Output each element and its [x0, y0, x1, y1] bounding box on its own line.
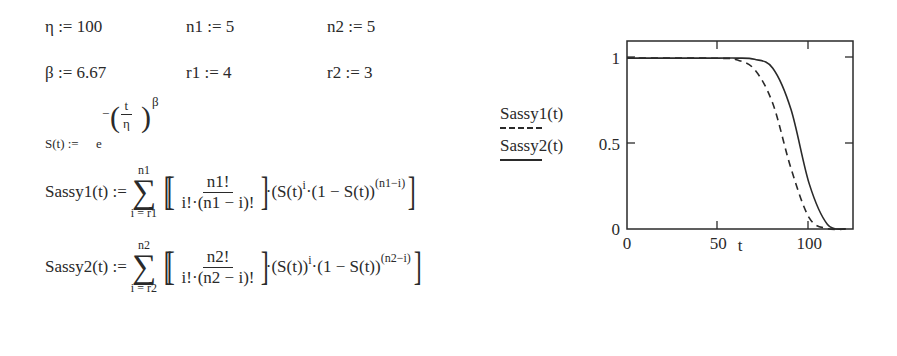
- bracket-close-inner: ]: [261, 172, 269, 212]
- sigma-icon: ∑: [132, 252, 156, 282]
- survival-term: ·(S(t): [266, 182, 303, 202]
- sigma-icon: ∑: [132, 177, 156, 207]
- eta-symbol: η: [45, 17, 54, 36]
- n2-definition: n2 := 5: [327, 17, 375, 37]
- summation: n2 ∑ i = r2: [131, 239, 157, 295]
- n1-definition: n1 := 5: [186, 17, 234, 37]
- beta-value: 6.67: [76, 63, 106, 82]
- y-tick-label: 0.5: [599, 135, 620, 154]
- sassy2-curve: [627, 58, 846, 229]
- beta-exponent: β: [152, 94, 159, 110]
- eta-value: 100: [77, 17, 103, 36]
- x-axis-label: t: [738, 236, 743, 255]
- assign-op: :=: [204, 63, 218, 82]
- legend-label-sassy1: Sassy1(t): [500, 104, 563, 123]
- n2-value: 5: [367, 17, 376, 36]
- survival-definition: S(t) := e − ( t η ) β: [45, 96, 175, 146]
- bracket-close-inner: ]: [261, 247, 269, 287]
- survival-term: ·(S(t)): [266, 257, 308, 277]
- legend-sassy1: Sassy1(t): [500, 104, 563, 124]
- frac-numerator: n1!: [203, 172, 234, 193]
- eta-definition: η := 100: [45, 17, 102, 37]
- binomial-fraction: n1! i!·(n1 − i)!: [178, 172, 259, 213]
- exp-base: e: [96, 136, 102, 152]
- n2-symbol: n2: [327, 17, 344, 36]
- r1-symbol: r1: [186, 63, 200, 82]
- r1-definition: r1 := 4: [186, 63, 231, 83]
- x-tick-label: 0: [623, 234, 632, 253]
- sassy1-definition: Sassy1(t) := n1 ∑ i = r1 [ [ n1! i!·(n1 …: [45, 160, 418, 224]
- failure-term: ·(1 − S(t)): [312, 257, 381, 277]
- r2-value: 3: [364, 63, 373, 82]
- x-axis-ticks: 050100: [623, 234, 822, 253]
- failure-term: ·(1 − S(t)): [306, 182, 375, 202]
- binomial-fraction: n2! i!·(n2 − i)!: [178, 247, 259, 288]
- n1-value: 5: [226, 17, 235, 36]
- x-tick-label: 100: [797, 234, 823, 253]
- assign-op: :=: [348, 17, 362, 36]
- assign-op: :=: [207, 17, 221, 36]
- legend-dashed-line: [500, 127, 542, 129]
- frac-numerator: t: [121, 98, 133, 115]
- assign-op: :=: [58, 17, 72, 36]
- assign-op: :=: [345, 63, 359, 82]
- t-over-eta: t η: [119, 98, 134, 133]
- assign-op: :=: [58, 63, 72, 82]
- survival-lhs: S(t) :=: [45, 136, 79, 152]
- frac-denominator: η: [119, 115, 134, 133]
- frac-denominator: i!·(n1 − i)!: [178, 193, 259, 213]
- beta-definition: β := 6.67: [45, 63, 106, 83]
- minus-sign: −: [102, 106, 109, 122]
- plot-frame: [627, 41, 853, 229]
- bracket-open-inner: [: [167, 247, 175, 287]
- summation: n1 ∑ i = r1: [131, 164, 157, 220]
- y-tick-label: 0: [612, 220, 621, 239]
- exponent-n-minus-i: (n1−i): [375, 176, 405, 191]
- bracket-close: ]: [413, 247, 421, 287]
- x-tick-label: 50: [710, 234, 727, 253]
- bracket-open-inner: [: [167, 172, 175, 212]
- legend-solid-line: [500, 159, 542, 161]
- sassy2-definition: Sassy2(t) := n2 ∑ i = r2 [ [ n2! i!·(n2 …: [45, 235, 424, 299]
- frac-denominator: i!·(n2 − i)!: [178, 268, 259, 288]
- sum-lower-limit: i = r2: [131, 282, 157, 295]
- legend-label-sassy2: Sassy2(t): [500, 136, 563, 155]
- reliability-chart: 00.51 050100 t: [560, 30, 880, 260]
- y-axis-ticks: 00.51: [599, 49, 620, 239]
- sassy1-curve: [627, 58, 846, 229]
- r2-definition: r2 := 3: [327, 63, 372, 83]
- r2-symbol: r2: [327, 63, 341, 82]
- n1-symbol: n1: [186, 17, 203, 36]
- r1-value: 4: [223, 63, 232, 82]
- sassy1-lhs: Sassy1(t) :=: [45, 182, 127, 202]
- sum-lower-limit: i = r1: [131, 207, 157, 220]
- exponent-n-minus-i: (n2−i): [381, 251, 411, 266]
- bracket-close: ]: [408, 172, 416, 212]
- beta-symbol: β: [45, 63, 54, 82]
- paren-close: ): [141, 96, 151, 138]
- legend-sassy2: Sassy2(t): [500, 136, 563, 156]
- sassy2-lhs: Sassy2(t) :=: [45, 257, 127, 277]
- frac-numerator: n2!: [203, 247, 234, 268]
- y-tick-label: 1: [612, 49, 621, 68]
